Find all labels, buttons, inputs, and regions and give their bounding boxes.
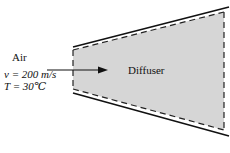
diffuser-diagram: Air v = 200 m/s T = 30℃ Diffuser bbox=[0, 0, 230, 153]
inlet-temperature-label: T = 30℃ bbox=[4, 80, 47, 92]
inlet-velocity-label: v = 200 m/s bbox=[4, 68, 56, 80]
inlet-fluid-label: Air bbox=[12, 51, 27, 63]
device-label: Diffuser bbox=[128, 64, 165, 76]
